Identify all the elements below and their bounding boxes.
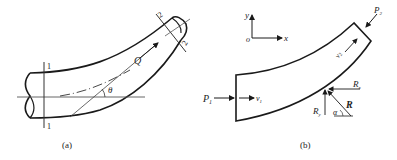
theta-label: θ <box>108 85 113 95</box>
rx-label: Rx <box>352 79 362 90</box>
diagram-canvas: 1 1 2 2 Q θ (a) y x o P1 v1 P2 <box>0 0 397 160</box>
pipe-wall-top <box>30 18 172 73</box>
pipe-break-left <box>26 73 31 118</box>
r-label: R <box>345 99 353 110</box>
theta-arc <box>102 89 105 97</box>
p1-label: P1 <box>202 93 212 105</box>
flow-arrow-icon <box>140 43 158 58</box>
y-axis-label: y <box>244 10 249 20</box>
x-axis-label: x <box>283 33 288 43</box>
flow-label-q: Q <box>134 55 142 66</box>
pipe-centerline <box>60 70 130 96</box>
caption-b: (b) <box>300 140 311 150</box>
caption-a: (a) <box>62 140 72 150</box>
origin-label: o <box>246 35 250 44</box>
section-1-bottom-label: 1 <box>47 122 51 131</box>
alpha-arc <box>340 110 343 116</box>
figure-b-control-volume: y x o P1 v1 P2 v2 Rx Ry R α (b) <box>202 5 383 150</box>
v2-label: v2 <box>334 50 344 59</box>
ry-label: Ry <box>312 106 322 117</box>
p2-arrow <box>366 14 377 27</box>
figure-a-bent-pipe: 1 1 2 2 Q θ (a) <box>17 10 190 150</box>
section-1-top-label: 1 <box>47 62 51 71</box>
v1-label: v1 <box>256 94 262 104</box>
p2-label: P2 <box>373 5 383 16</box>
v2-arrow <box>345 39 357 52</box>
pipe-wall-bottom <box>30 40 181 118</box>
section-2-top-label: 2 <box>156 10 164 20</box>
